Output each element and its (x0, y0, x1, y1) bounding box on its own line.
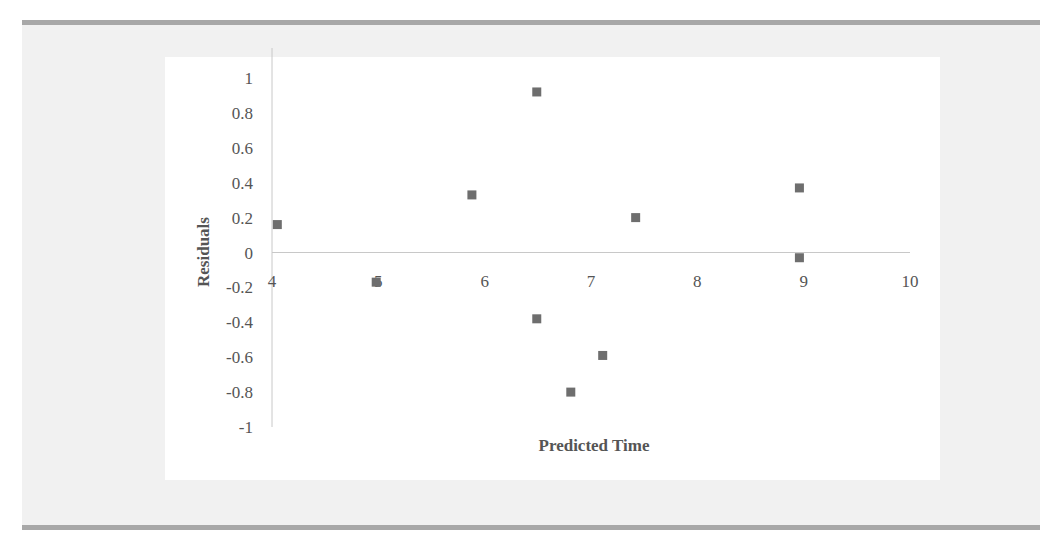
residual-scatter-chart: 10.80.60.40.20-0.2-0.4-0.6-0.8-1 4567891… (0, 0, 1063, 541)
x-axis-title: Predicted Time (539, 436, 650, 455)
y-axis-title: Residuals (194, 217, 213, 287)
x-tick-label: 9 (799, 272, 808, 291)
data-point-marker (467, 190, 476, 199)
y-tick-labels: 10.80.60.40.20-0.2-0.4-0.6-0.8-1 (226, 69, 253, 437)
y-tick-label: 0.8 (232, 104, 253, 123)
y-tick-label: 1 (245, 69, 254, 88)
y-tick-label: 0.6 (232, 139, 253, 158)
x-tick-label: 10 (902, 272, 919, 291)
x-tick-label: 8 (693, 272, 702, 291)
data-points (273, 87, 804, 396)
data-point-marker (795, 183, 804, 192)
data-point-marker (273, 220, 282, 229)
data-point-marker (532, 314, 541, 323)
data-point-marker (631, 213, 640, 222)
y-tick-label: -0.6 (226, 348, 253, 367)
x-tick-label: 7 (587, 272, 596, 291)
y-tick-label: -0.8 (226, 383, 253, 402)
data-point-marker (372, 278, 381, 287)
data-point-marker (598, 351, 607, 360)
data-point-marker (795, 253, 804, 262)
y-tick-label: 0.2 (232, 209, 253, 228)
x-tick-label: 4 (268, 272, 277, 291)
data-point-marker (566, 388, 575, 397)
x-tick-label: 6 (480, 272, 489, 291)
x-tick-labels: 45678910 (268, 272, 919, 291)
y-tick-label: -0.2 (226, 278, 253, 297)
data-point-marker (532, 87, 541, 96)
y-tick-label: 0 (245, 244, 254, 263)
y-tick-label: -1 (239, 418, 253, 437)
y-tick-label: 0.4 (232, 174, 254, 193)
y-tick-label: -0.4 (226, 313, 253, 332)
